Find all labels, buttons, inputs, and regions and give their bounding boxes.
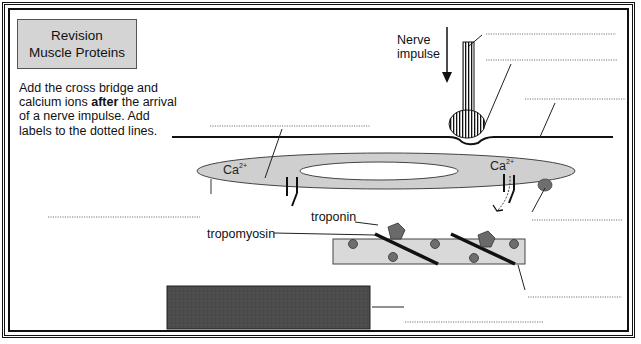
calcium-label-left: Ca2+ [223, 162, 247, 177]
calcium-label-right: Ca2+ [490, 158, 514, 173]
thin-filament [333, 223, 525, 264]
troponin-complex [478, 231, 495, 247]
calcium-symbol: Ca [490, 159, 506, 173]
troponin-complex [388, 223, 405, 239]
actin-binding-site [431, 240, 440, 249]
troponin-label: troponin [311, 210, 356, 224]
calcium-pump-protein [538, 179, 552, 191]
calcium-symbol: Ca [223, 163, 239, 177]
nerve-impulse-label-line1: Nerve [397, 33, 430, 47]
nerve-impulse-arrow-icon [442, 27, 452, 83]
motor-neuron [449, 42, 485, 138]
sarcoplasmic-reticulum [197, 153, 575, 189]
nerve-impulse-label-line2: impulse [397, 47, 440, 61]
calcium-charge: 2+ [239, 162, 247, 169]
sarcolemma-line [172, 137, 613, 144]
calcium-charge: 2+ [506, 158, 514, 165]
tropomyosin-label: tropomyosin [207, 227, 275, 241]
actin-binding-site [389, 253, 398, 262]
actin-binding-site [510, 240, 519, 249]
actin-binding-site [470, 254, 479, 263]
myosin-filament [167, 286, 370, 329]
actin-binding-site [349, 240, 358, 249]
muscle-diagram [0, 0, 641, 344]
